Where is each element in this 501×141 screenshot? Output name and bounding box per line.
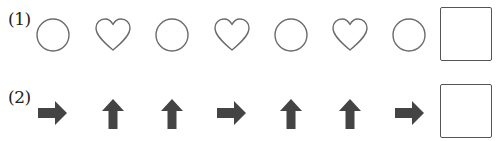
arrow-up-icon [102, 99, 124, 129]
arrow-up-icon [280, 99, 302, 129]
arrow-up-icon [339, 99, 361, 129]
answer-box-2[interactable] [440, 84, 492, 138]
circle-icon [274, 18, 308, 52]
arrow-up-icon [161, 99, 183, 129]
answer-box-1[interactable] [440, 7, 492, 61]
arrow-right-icon [395, 101, 425, 125]
circle-icon [36, 18, 70, 52]
circle-icon [392, 18, 426, 52]
arrow-right-icon [38, 101, 68, 125]
circle-icon [155, 18, 189, 52]
arrow-right-icon [217, 101, 247, 125]
heart-icon [214, 18, 250, 52]
row-1-label: (1) [8, 9, 31, 29]
row-2-label: (2) [8, 87, 31, 107]
heart-icon [95, 18, 131, 52]
heart-icon [332, 18, 368, 52]
